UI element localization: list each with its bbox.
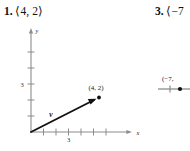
y-axis-arrowhead [29, 28, 33, 34]
exercise-1-number: 1. [4, 5, 13, 17]
textbook-page: 1.⟨4, 2⟩ 3.⟨−7 [0, 0, 190, 151]
point-4-2-dot [97, 96, 101, 100]
vector-graph-figure: 3 3 y x (4, 2) v [18, 24, 143, 144]
vector-v-line [31, 100, 94, 132]
x-axis-arrowhead [126, 130, 132, 134]
exercise-3-heading: 3.⟨−7 [155, 4, 184, 18]
exercise-3-vector-notation: ⟨−7 [166, 5, 184, 17]
exercise-3-number: 3. [155, 5, 164, 17]
vector-v-label: v [49, 110, 53, 119]
exercise-3-point-dot [178, 87, 182, 91]
exercise-1-vector-notation: ⟨4, 2⟩ [15, 5, 43, 17]
point-4-2-label: (4, 2) [88, 84, 104, 92]
x-axis-tick-label-3: 3 [67, 136, 70, 143]
exercise-3-figure: (−7, [158, 72, 190, 98]
y-axis-tick-label-3: 3 [20, 81, 23, 88]
exercise-3-point-label: (−7, [162, 75, 174, 83]
exercise-1-heading: 1.⟨4, 2⟩ [4, 4, 43, 18]
y-axis-label: y [35, 27, 39, 34]
x-axis-label: x [136, 129, 140, 136]
